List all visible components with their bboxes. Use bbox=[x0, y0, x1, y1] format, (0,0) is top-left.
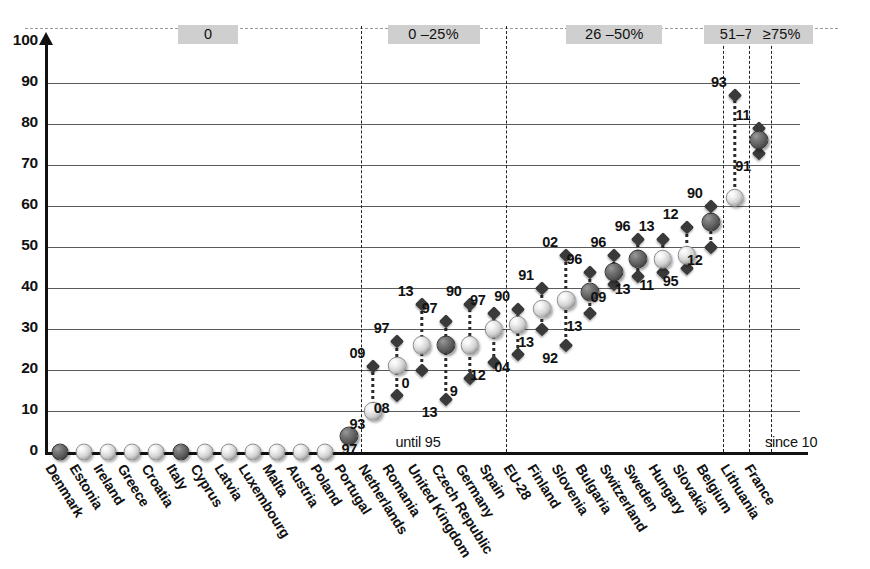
data-point-greece[interactable] bbox=[124, 444, 141, 461]
data-point-cyprus[interactable] bbox=[196, 444, 213, 461]
data-point-united-kingdom[interactable] bbox=[412, 336, 431, 355]
data-point-malta[interactable] bbox=[268, 444, 285, 461]
point-year-label-high: 11 bbox=[736, 107, 751, 123]
point-year-label-low: 97 bbox=[341, 441, 357, 457]
data-point-belgium[interactable] bbox=[701, 213, 720, 232]
point-year-label-high: 97 bbox=[470, 292, 486, 308]
data-point-estonia[interactable] bbox=[76, 444, 93, 461]
chart-root: 010203040506070809010000 –25%26 –50%51–7… bbox=[0, 0, 870, 569]
data-point-latvia[interactable] bbox=[220, 444, 237, 461]
point-year-label-high: 93 bbox=[711, 74, 727, 90]
point-year-label-high: 90 bbox=[446, 283, 462, 299]
data-point-germany[interactable] bbox=[460, 336, 479, 355]
y-axis-tick-label: 10 bbox=[0, 400, 38, 418]
point-year-label-high: 13 bbox=[398, 283, 414, 299]
data-point-denmark[interactable] bbox=[52, 444, 69, 461]
data-point-france[interactable] bbox=[749, 131, 768, 150]
annotation-since-10: since 10 bbox=[765, 434, 817, 450]
range-marker-high bbox=[487, 306, 500, 319]
point-year-label-low: 91 bbox=[735, 158, 751, 174]
point-year-label-low: 0 bbox=[402, 375, 410, 391]
data-point-poland[interactable] bbox=[317, 444, 334, 461]
data-point-hungary[interactable] bbox=[653, 250, 672, 269]
range-marker-high bbox=[632, 232, 645, 245]
plot-area: 010203040506070809010000 –25%26 –50%51–7… bbox=[0, 0, 870, 569]
data-point-sweden[interactable] bbox=[629, 250, 648, 269]
range-marker-low bbox=[535, 322, 548, 335]
range-marker-high bbox=[511, 302, 524, 315]
y-axis-tick-label: 60 bbox=[0, 195, 38, 213]
range-marker-high bbox=[680, 220, 693, 233]
data-point-czech-republic[interactable] bbox=[436, 336, 455, 355]
data-point-slovenia[interactable] bbox=[557, 291, 576, 310]
band-separator bbox=[749, 26, 750, 452]
point-year-label-high: 91 bbox=[518, 267, 534, 283]
band-separator bbox=[771, 26, 772, 452]
data-point-luxembourg[interactable] bbox=[244, 444, 261, 461]
point-year-label-low: 93 bbox=[350, 416, 366, 432]
point-year-label-high: 97 bbox=[374, 320, 390, 336]
range-marker-high bbox=[439, 314, 452, 327]
gridline bbox=[47, 206, 800, 207]
y-axis-tick-label: 70 bbox=[0, 154, 38, 172]
point-year-label-low: 13 bbox=[422, 404, 438, 420]
data-point-ireland[interactable] bbox=[100, 444, 117, 461]
band-separator bbox=[361, 26, 362, 452]
gridline bbox=[47, 124, 800, 125]
gridline bbox=[47, 165, 800, 166]
point-year-label-low: 95 bbox=[663, 273, 679, 289]
annotation-until-95: until 95 bbox=[395, 434, 440, 450]
data-point-italy[interactable] bbox=[172, 444, 189, 461]
point-year-label-high: 02 bbox=[542, 234, 558, 250]
point-year-label-low: 11 bbox=[639, 277, 654, 293]
y-axis-tick-label: 40 bbox=[0, 277, 38, 295]
range-marker-low bbox=[704, 240, 717, 253]
gridline bbox=[47, 288, 800, 289]
point-year-label-high: 09 bbox=[350, 345, 366, 361]
data-point-croatia[interactable] bbox=[148, 444, 165, 461]
point-year-label-low: 12 bbox=[687, 252, 703, 268]
point-year-label-high: 12 bbox=[663, 206, 679, 222]
y-axis-tick-label: 50 bbox=[0, 236, 38, 254]
point-year-label-high: 90 bbox=[494, 288, 510, 304]
gridline bbox=[47, 83, 800, 84]
data-point-romania[interactable] bbox=[388, 357, 407, 376]
band-header-label: 26 –50% bbox=[566, 25, 662, 44]
band-separator bbox=[506, 26, 507, 452]
point-year-label-low: 08 bbox=[374, 400, 390, 416]
data-point-lithuania[interactable] bbox=[726, 189, 745, 208]
band-header-label: 0 –25% bbox=[388, 25, 480, 44]
y-axis-tick-label: 80 bbox=[0, 113, 38, 131]
data-point-austria[interactable] bbox=[293, 444, 310, 461]
y-axis-tick-label: 90 bbox=[0, 72, 38, 90]
y-axis-line bbox=[45, 44, 48, 452]
y-axis-arrow-icon bbox=[39, 32, 53, 45]
point-year-label-low: 04 bbox=[494, 359, 510, 375]
range-marker-high bbox=[728, 89, 741, 102]
data-point-switzerland[interactable] bbox=[605, 262, 624, 281]
y-axis-tick-label: 100 bbox=[0, 31, 38, 49]
y-axis-tick-label: 20 bbox=[0, 359, 38, 377]
data-point-finland[interactable] bbox=[533, 299, 552, 318]
data-point-spain[interactable] bbox=[485, 320, 504, 339]
point-year-label-low: 12 bbox=[470, 367, 486, 383]
range-marker-high bbox=[535, 281, 548, 294]
band-header-label: 0 bbox=[178, 25, 238, 44]
range-marker-high bbox=[656, 232, 669, 245]
y-axis-tick-label: 30 bbox=[0, 318, 38, 336]
band-header-label: ≥75% bbox=[751, 25, 813, 44]
point-year-label-low: 13 bbox=[566, 318, 582, 334]
range-marker-low bbox=[583, 306, 596, 319]
point-year-label-high: 96 bbox=[566, 251, 582, 267]
point-year-label-high: 97 bbox=[422, 300, 438, 316]
range-marker-high bbox=[704, 199, 717, 212]
range-marker-low bbox=[559, 339, 572, 352]
point-year-label-low: 13 bbox=[518, 334, 534, 350]
point-year-label-high: 96 bbox=[615, 218, 631, 234]
y-axis-tick-label: 0 bbox=[0, 441, 38, 459]
range-marker-low bbox=[415, 363, 428, 376]
range-marker-high bbox=[583, 265, 596, 278]
range-marker-high bbox=[391, 335, 404, 348]
point-year-label-low: 9 bbox=[450, 383, 458, 399]
data-point-eu-28[interactable] bbox=[509, 316, 528, 335]
